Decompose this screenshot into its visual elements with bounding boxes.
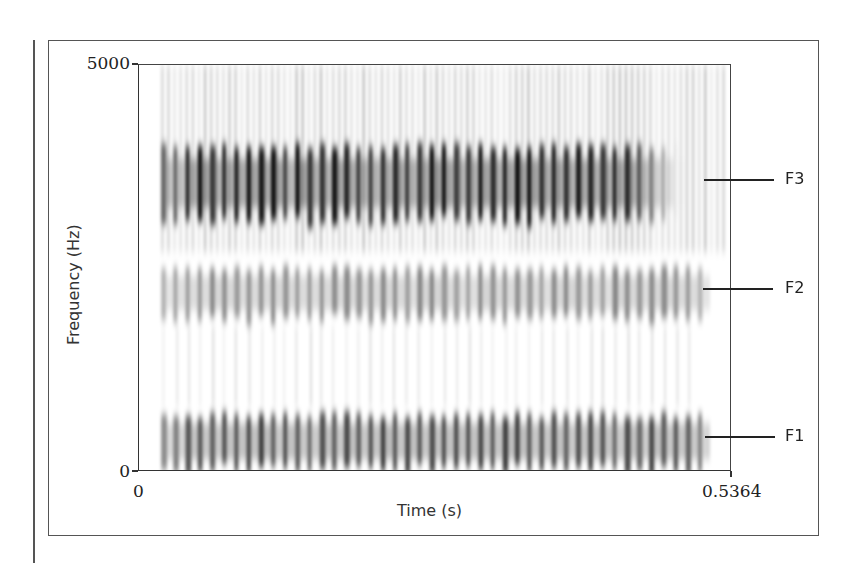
f2-marker-line [703,288,773,290]
f2-label: F2 [785,280,804,296]
spectrogram-plot [138,64,731,471]
f3-label: F3 [785,171,804,187]
x-tick-label-max: 0.5364 [702,483,761,500]
spectrogram-image [139,65,731,471]
y-tick-label-min: 0 [50,463,130,480]
x-tick-max [730,471,732,477]
f3-marker-line [704,179,774,181]
y-tick-min [132,470,138,472]
f1-marker-line [705,436,775,438]
f1-label: F1 [785,428,804,444]
page-margin-rule [33,40,35,563]
y-axis-title: Frequency (Hz) [66,224,82,345]
x-axis-title: Time (s) [397,503,462,519]
x-tick-label-min: 0 [133,483,144,500]
y-tick-max [132,63,138,65]
y-tick-label-max: 5000 [50,55,130,72]
